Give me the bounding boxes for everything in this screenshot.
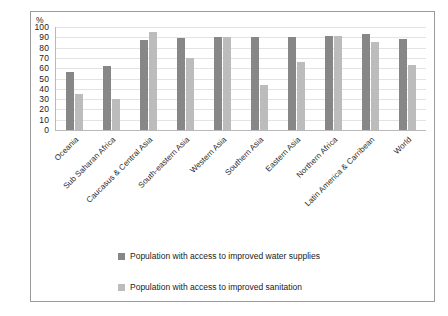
bar — [214, 37, 222, 130]
y-tick-60: 60 — [39, 64, 49, 73]
bar — [288, 37, 296, 130]
y-tick-70: 70 — [39, 54, 49, 63]
bar-group — [241, 27, 278, 130]
bar-group — [315, 27, 352, 130]
bar — [399, 39, 407, 130]
bar-group — [278, 27, 315, 130]
bar — [103, 66, 111, 130]
y-tick-40: 40 — [39, 85, 49, 94]
bar — [75, 94, 83, 130]
bar-group — [167, 27, 204, 130]
bar — [66, 72, 74, 130]
bar — [297, 62, 305, 130]
y-tick-100: 100 — [35, 23, 49, 32]
bar-group — [389, 27, 426, 130]
bar — [371, 42, 379, 130]
bar-groups — [56, 27, 426, 130]
bar-group — [204, 27, 241, 130]
bar — [408, 65, 416, 130]
legend-swatch-icon — [118, 253, 125, 260]
y-tick-10: 10 — [39, 115, 49, 124]
bar — [140, 40, 148, 130]
legend-label: Population with access to improved water… — [130, 252, 320, 261]
bar-group — [93, 27, 130, 130]
legend-item: Population with access to improved water… — [118, 249, 418, 264]
bar-group — [56, 27, 93, 130]
bar — [149, 32, 157, 130]
plot-area — [55, 27, 426, 130]
bar — [251, 37, 259, 130]
y-axis-tick-labels: 0102030405060708090100 — [0, 27, 52, 130]
bar — [362, 34, 370, 130]
bar — [325, 36, 333, 130]
gridline-0 — [55, 130, 426, 131]
y-tick-20: 20 — [39, 105, 49, 114]
y-tick-90: 90 — [39, 33, 49, 42]
y-tick-50: 50 — [39, 74, 49, 83]
y-tick-80: 80 — [39, 43, 49, 52]
bar-group — [352, 27, 389, 130]
legend-label: Population with access to improved sanit… — [130, 283, 302, 292]
bar — [334, 36, 342, 130]
y-tick-30: 30 — [39, 95, 49, 104]
bar — [186, 58, 194, 130]
y-tick-0: 0 — [44, 126, 49, 135]
chart-legend: Population with access to improved water… — [118, 249, 418, 311]
bar-group — [130, 27, 167, 130]
bar — [223, 37, 231, 130]
legend-item: Population with access to improved sanit… — [118, 280, 418, 295]
legend-swatch-icon — [118, 284, 125, 291]
chart-figure: % 0102030405060708090100 OceaniaSub Saha… — [0, 0, 448, 316]
bar — [177, 38, 185, 130]
bar — [260, 85, 268, 130]
bar — [112, 99, 120, 130]
